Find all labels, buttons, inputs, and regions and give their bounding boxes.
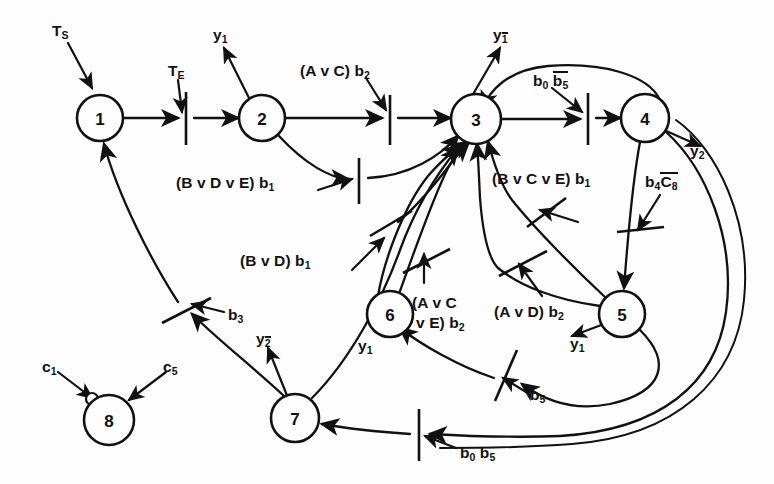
- pointer-b3: [192, 304, 224, 312]
- node-2-label: 2: [257, 110, 266, 129]
- pointer-avc-b2: [366, 78, 386, 110]
- node-7[interactable]: 7: [271, 394, 319, 442]
- node-2[interactable]: 2: [239, 95, 285, 141]
- pointer-b0-b5: [425, 436, 456, 448]
- node-6[interactable]: 6: [367, 291, 413, 337]
- label-y2-node4: y2: [690, 142, 705, 162]
- pointer-y1-node2: [224, 48, 250, 100]
- label-bvd-b1: (B v D) b1: [240, 252, 310, 272]
- edge-4-to-5: [624, 142, 640, 288]
- edge-2-to-bar-bvdve: [279, 136, 348, 179]
- label-b0-b5bar: b0 b5: [533, 71, 568, 92]
- pointer-bvd-b1: [352, 238, 384, 270]
- pointer-te: [178, 80, 182, 112]
- label-y1-node6: y1: [358, 337, 373, 357]
- node-1-label: 1: [95, 110, 104, 129]
- node-7-label: 7: [290, 410, 299, 429]
- state-diagram: 1 2 3 4 5 6 7 8 TS TE: [0, 0, 774, 484]
- pointer-b4-c8bar: [638, 195, 660, 230]
- label-b5: b5: [530, 386, 545, 406]
- label-avd-b2: (A v D) b2: [494, 303, 564, 323]
- node-6-label: 6: [385, 306, 394, 325]
- label-ts: TS: [52, 22, 69, 42]
- label-c1: c1: [42, 358, 57, 378]
- label-c5: c5: [163, 358, 178, 378]
- edge-bar-b5-to-6: [400, 328, 494, 378]
- label-b3: b3: [228, 306, 243, 326]
- label-y1bar-node3: y1: [493, 26, 508, 44]
- edge-bar-b0b5-to-7: [322, 424, 410, 434]
- pointer-c5: [129, 372, 166, 400]
- node-4[interactable]: 4: [621, 94, 669, 142]
- pointer-bvdve-b1: [318, 179, 352, 190]
- node-1[interactable]: 1: [77, 95, 123, 141]
- edge-3-to-4: [501, 118, 620, 119]
- bar-b5: [495, 350, 517, 401]
- label-avc-ve-b2-line1: (A v C: [412, 294, 457, 311]
- node-3[interactable]: 3: [451, 94, 501, 144]
- label-y1-node5: y1: [570, 335, 585, 355]
- label-b0-b5: b0 b5: [460, 444, 495, 464]
- node-5-label: 5: [617, 306, 626, 325]
- label-avc-b2: (A v C) b2: [300, 62, 370, 82]
- pointer-bvcve-b1: [540, 210, 578, 222]
- label-te: TE: [168, 62, 185, 82]
- node-3-label: 3: [471, 111, 480, 130]
- node-8-label: 8: [104, 412, 113, 431]
- bar-avd-b2: [499, 251, 547, 276]
- label-y1-node2: y1: [213, 26, 228, 46]
- node-5[interactable]: 5: [599, 291, 645, 337]
- bar-b3: [162, 298, 211, 323]
- label-bvdve-b1: (B v D v E) b1: [176, 174, 274, 194]
- label-b4-c8bar: b4C8: [645, 172, 678, 193]
- graph-canvas: 1 2 3 4 5 6 7 8: [0, 0, 774, 484]
- node-8[interactable]: 8: [84, 395, 134, 445]
- edge-bar-b3-to-1: [104, 144, 178, 302]
- label-y2bar-node7: y2: [256, 330, 271, 348]
- node-4-label: 4: [640, 110, 650, 129]
- label-avc-ve-b2-line2: v E) b2: [416, 314, 465, 334]
- pointer-ts: [68, 43, 92, 88]
- label-bvcve-b1: (B v C v E) b1: [492, 170, 590, 190]
